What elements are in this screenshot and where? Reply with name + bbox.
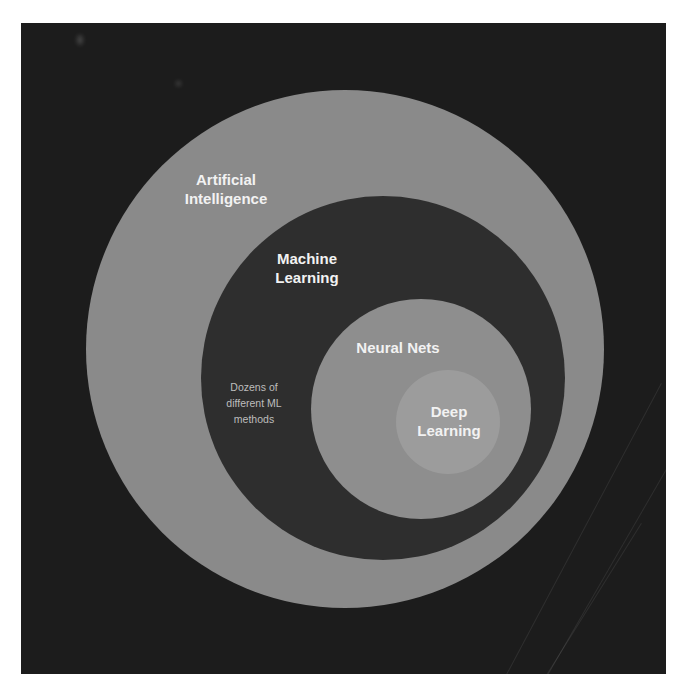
star-decoration <box>176 81 181 86</box>
ai-label: Artificial Intelligence <box>151 171 301 209</box>
diagram-panel: Artificial Intelligence Machine Learning… <box>21 23 666 674</box>
ml-label: Machine Learning <box>237 250 377 288</box>
dl-label: Deep Learning <box>399 403 499 441</box>
star-decoration <box>77 35 83 45</box>
ml-note: Dozens of different ML methods <box>209 380 299 427</box>
nn-label: Neural Nets <box>333 339 463 358</box>
